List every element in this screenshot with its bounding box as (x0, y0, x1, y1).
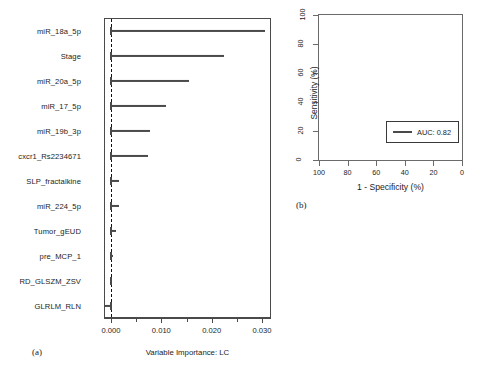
x-axis-tick (348, 161, 349, 166)
bar-origin-cap (110, 52, 112, 60)
bar-origin-cap (110, 277, 112, 285)
variable-label: RD_GLSZM_ZSV (19, 276, 81, 285)
panel-b-roc-curve: 020406080100 100806040200 Sensitivity (%… (290, 0, 487, 375)
variable-importance-row: RD_GLSZM_ZSV (0, 269, 271, 293)
variable-importance-row: pre_MCP_1 (0, 244, 271, 268)
variable-importance-row: GLRLM_RLN (0, 294, 271, 318)
panel-a-tag: (a) (32, 347, 42, 357)
panel-a-x-axis-title: Variable Importance: LC (104, 348, 271, 357)
x-axis-tick-label: 60 (372, 168, 380, 177)
roc-legend: AUC: 0.82 (386, 121, 459, 143)
x-axis-tick (212, 318, 213, 323)
variable-importance-bar (111, 54, 224, 56)
variable-label: miR_18a_5p (37, 26, 81, 35)
bar-origin-cap (110, 152, 112, 160)
x-axis-tick (462, 161, 463, 166)
variable-importance-bar (111, 179, 119, 181)
x-axis-tick (111, 318, 112, 323)
x-axis-minor-tick (237, 318, 238, 322)
x-axis-tick-label: 40 (401, 168, 409, 177)
variable-label: miR_20a_5p (37, 76, 81, 85)
bar-origin-cap (110, 27, 112, 35)
x-axis-minor-tick (136, 318, 137, 322)
x-axis-tick-label: 0.010 (152, 326, 171, 335)
bar-origin-cap (110, 252, 112, 260)
variable-label: cxcr1_Rs2234671 (18, 151, 81, 160)
variable-importance-bar (111, 204, 119, 206)
variable-importance-row: miR_224_5p (0, 194, 271, 218)
bar-origin-cap (110, 202, 112, 210)
variable-label: Stage (61, 51, 81, 60)
bar-origin-cap (110, 102, 112, 110)
variable-importance-row: miR_19b_3p (0, 119, 271, 143)
y-axis-tick-label: 100 (298, 9, 307, 21)
legend-auc-label: AUC: 0.82 (417, 128, 451, 137)
variable-importance-bar (111, 154, 148, 156)
variable-importance-row: miR_20a_5p (0, 69, 271, 93)
panel-b-y-axis-title: Sensitivity (%) (309, 23, 319, 163)
variable-label: miR_19b_3p (37, 126, 81, 135)
variable-label: pre_MCP_1 (40, 251, 81, 260)
x-axis-tick-label: 0.030 (252, 326, 271, 335)
y-axis-tick-label: 60 (296, 69, 305, 77)
panel-a-x-axis (104, 318, 271, 319)
variable-importance-bar (111, 129, 150, 131)
figure-root: miR_18a_5pStagemiR_20a_5pmiR_17_5pmiR_19… (0, 0, 487, 375)
variable-label: SLP_fractalkine (26, 176, 81, 185)
x-axis-tick (376, 161, 377, 166)
variable-importance-bar (111, 79, 189, 81)
panel-b-x-axis-title: 1 - Specificity (%) (318, 182, 463, 192)
x-axis-tick-label: 20 (429, 168, 437, 177)
y-axis-tick-label: 80 (296, 40, 305, 48)
x-axis-minor-tick (187, 318, 188, 322)
y-axis-tick (313, 15, 318, 16)
variable-importance-row: SLP_fractalkine (0, 169, 271, 193)
x-axis-tick-label: 0 (460, 168, 464, 177)
variable-importance-row: miR_18a_5p (0, 19, 271, 43)
panel-b-tag: (b) (296, 200, 307, 210)
variable-importance-bar (111, 29, 265, 31)
variable-importance-row: miR_17_5p (0, 94, 271, 118)
variable-importance-row: Tumor_gEUD (0, 219, 271, 243)
x-axis-tick (433, 161, 434, 166)
x-axis-tick-label: 80 (344, 168, 352, 177)
variable-label: miR_17_5p (41, 101, 81, 110)
legend-line-swatch (393, 131, 412, 133)
x-axis-tick (161, 318, 162, 323)
panel-a-variable-importance: miR_18a_5pStagemiR_20a_5pmiR_17_5pmiR_19… (0, 0, 290, 375)
bar-origin-cap (110, 227, 112, 235)
bar-origin-cap (110, 77, 112, 85)
x-axis-tick (405, 161, 406, 166)
variable-importance-rows: miR_18a_5pStagemiR_20a_5pmiR_17_5pmiR_19… (0, 18, 271, 318)
y-axis-tick-label: 20 (296, 127, 305, 135)
bar-origin-cap (110, 127, 112, 135)
y-axis-tick-label: 40 (296, 98, 305, 106)
y-axis-tick-label: 0 (294, 158, 303, 162)
variable-label: Tumor_gEUD (34, 226, 81, 235)
variable-importance-bar (111, 104, 166, 106)
x-axis-tick (262, 318, 263, 323)
x-axis-tick-label: 100 (313, 168, 325, 177)
variable-label: GLRLM_RLN (35, 301, 81, 310)
x-axis-tick (319, 161, 320, 166)
x-axis-tick-label: 0.020 (202, 326, 221, 335)
variable-label: miR_224_5p (37, 201, 81, 210)
bar-origin-cap (110, 302, 112, 310)
variable-importance-row: Stage (0, 44, 271, 68)
x-axis-tick-label: 0.000 (101, 326, 120, 335)
bar-origin-cap (110, 177, 112, 185)
variable-importance-row: cxcr1_Rs2234671 (0, 144, 271, 168)
